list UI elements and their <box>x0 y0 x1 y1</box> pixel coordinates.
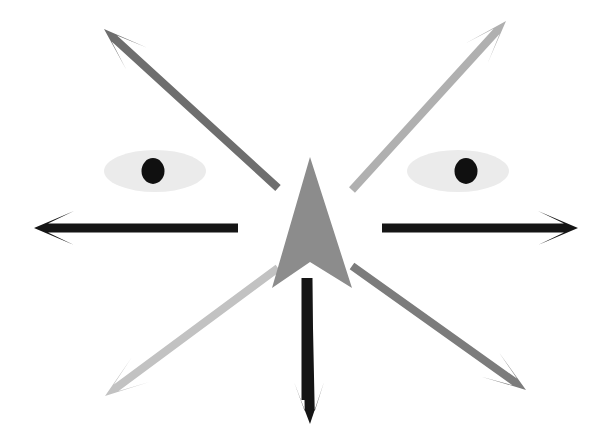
left-eye-pupil <box>142 158 165 184</box>
figure-root: Eight arrows radiating outward from a ce… <box>0 0 608 436</box>
right-eye <box>407 150 509 192</box>
center-arrow-shaft <box>302 278 313 400</box>
left-eye <box>104 150 206 192</box>
radial-arrow-diagram <box>0 0 608 436</box>
right-eye-pupil <box>455 158 478 184</box>
